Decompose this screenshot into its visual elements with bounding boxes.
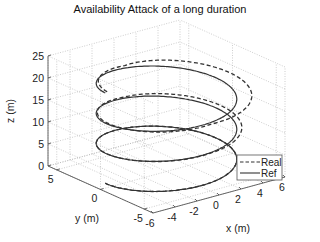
z-axis-label: z (m) (4, 99, 16, 123)
chart-title: Availability Attack of a long duration (74, 3, 247, 15)
ref-series-line (96, 66, 237, 192)
x-tick-label: -2 (189, 205, 198, 217)
x-axis-label: x (m) (226, 222, 250, 234)
x-tick-label: -4 (167, 211, 176, 223)
y-tick-label: -5 (134, 212, 143, 224)
z-tick-label: 25 (32, 50, 44, 62)
data-curves (96, 60, 252, 191)
helix-chart: Availability Attack of a long duration 0… (0, 0, 320, 242)
legend-ref-label: Ref (261, 168, 277, 179)
z-tick-label: 10 (32, 116, 44, 128)
x-tick-labels: -6-4-20246 (145, 181, 285, 229)
legend: Real Ref (237, 155, 282, 180)
real-series-line (96, 60, 252, 191)
x-tick-label: 2 (235, 193, 241, 205)
x-tick-label: 4 (257, 187, 263, 199)
z-tick-label: 5 (38, 138, 44, 150)
x-tick-label: 6 (279, 181, 285, 193)
z-tick-label: 15 (32, 94, 44, 106)
z-tick-label: 20 (32, 72, 44, 84)
x-tick-label: -6 (145, 217, 154, 229)
y-tick-label: 0 (92, 192, 98, 204)
y-tick-label: 5 (48, 173, 54, 185)
grid-lines (48, 20, 285, 213)
x-tick-label: 0 (213, 199, 219, 211)
z-tick-label: 0 (38, 160, 44, 172)
legend-real-label: Real (261, 157, 282, 168)
z-tick-labels: 0510152025 (32, 50, 44, 172)
y-axis-label: y (m) (75, 212, 99, 224)
